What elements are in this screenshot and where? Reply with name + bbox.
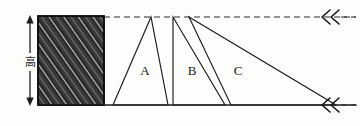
triangle-b-label: B xyxy=(188,63,197,78)
figure-canvas: 高 A B C xyxy=(0,0,360,126)
height-dimension: 高 xyxy=(21,15,39,106)
triangle-b xyxy=(173,17,225,105)
height-label: 高 xyxy=(25,55,36,69)
triangle-c xyxy=(189,17,336,105)
geometry-figure: 高 A B C xyxy=(0,0,360,126)
height-arrow-down xyxy=(26,98,33,107)
hatched-rectangle xyxy=(38,16,104,105)
triangle-c-label: C xyxy=(234,63,243,78)
height-arrow-up xyxy=(26,15,33,24)
triangle-a-label: A xyxy=(140,63,150,78)
rectangle-hatch-overlay xyxy=(38,16,104,105)
triangle-a xyxy=(113,17,168,105)
